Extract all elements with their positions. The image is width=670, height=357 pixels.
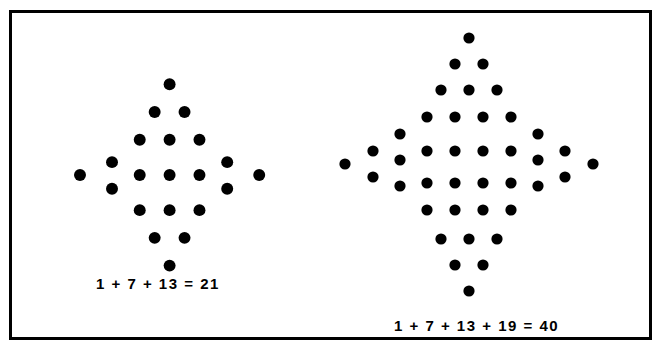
figure-border-frame: 1 + 7 + 13 = 21 1 + 7 + 13 + 19 = 40	[9, 10, 652, 340]
lattice-dot	[421, 177, 432, 188]
lattice-dot	[421, 111, 432, 122]
lattice-dot	[477, 177, 488, 188]
lattice-dot	[463, 285, 474, 296]
lattice-dot	[367, 171, 378, 182]
lattice-dot	[491, 84, 502, 95]
lattice-dot	[367, 145, 378, 156]
lattice-dot	[532, 154, 543, 165]
lattice-dot	[394, 128, 405, 139]
lattice-dot	[421, 145, 432, 156]
lattice-dot	[505, 145, 516, 156]
dot-group-right	[339, 32, 598, 296]
lattice-dot	[394, 154, 405, 165]
lattice-dot	[435, 233, 446, 244]
lattice-dot	[477, 259, 488, 270]
lattice-dot	[505, 204, 516, 215]
lattice-dot	[449, 177, 460, 188]
lattice-dot	[491, 233, 502, 244]
lattice-dot	[477, 58, 488, 69]
lattice-dot	[587, 158, 598, 169]
lattice-dot	[394, 180, 405, 191]
lattice-dot	[463, 84, 474, 95]
lattice-dot	[463, 32, 474, 43]
lattice-dot	[449, 145, 460, 156]
lattice-dot	[421, 204, 432, 215]
lattice-dot	[505, 177, 516, 188]
lattice-dot	[477, 145, 488, 156]
lattice-dot	[339, 158, 350, 169]
lattice-dot	[477, 111, 488, 122]
lattice-dot	[449, 259, 460, 270]
lattice-dot	[505, 111, 516, 122]
caption-right-equation: 1 + 7 + 13 + 19 = 40	[394, 317, 559, 334]
lattice-dot	[559, 145, 570, 156]
lattice-dot	[532, 128, 543, 139]
lattice-dot	[449, 204, 460, 215]
lattice-dot	[463, 233, 474, 244]
figure-page: 1 + 7 + 13 = 21 1 + 7 + 13 + 19 = 40	[0, 0, 670, 357]
lattice-dot	[435, 84, 446, 95]
lattice-dot	[477, 204, 488, 215]
caption-left-equation: 1 + 7 + 13 = 21	[96, 275, 220, 292]
lattice-dot	[449, 58, 460, 69]
lattice-dot	[449, 111, 460, 122]
lattice-dot	[532, 180, 543, 191]
lattice-dot	[559, 171, 570, 182]
